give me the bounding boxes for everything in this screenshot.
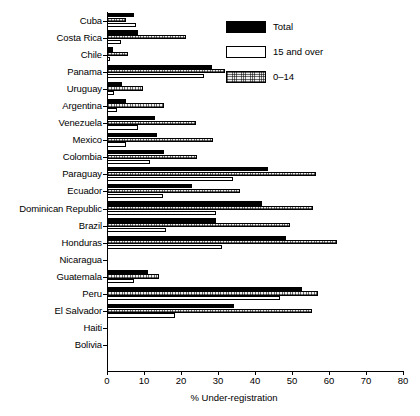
category-label: Haiti <box>83 323 102 333</box>
category-label: Nicaragua <box>60 255 102 265</box>
chart-row: El Salvador <box>107 303 403 320</box>
category-label: Mexico <box>73 135 103 145</box>
bar-15-and-over <box>107 40 121 44</box>
bar-15-and-over <box>107 279 134 283</box>
chart-row: Nicaragua <box>107 251 403 268</box>
category-label: Colombia <box>63 153 102 163</box>
x-axis-tick-label: 40 <box>250 376 261 386</box>
bar-total <box>107 13 134 17</box>
category-label: Bolivia <box>75 341 102 351</box>
chart-row: Venezuela <box>107 115 403 132</box>
category-label: Uruguay <box>67 84 102 94</box>
category-label: Peru <box>82 289 102 299</box>
bar-total <box>107 47 113 51</box>
bar-group <box>107 320 403 336</box>
bar-group <box>107 115 403 131</box>
bar-group <box>107 303 403 319</box>
category-label: Brazil <box>79 221 102 231</box>
bar-total <box>107 116 155 120</box>
legend-item: Total <box>226 14 396 39</box>
legend-swatch-black-fill <box>226 21 266 33</box>
bar-group <box>107 132 403 148</box>
x-axis-tick-label: 10 <box>139 376 150 386</box>
category-label: Chile <box>81 50 102 60</box>
bar-total <box>107 218 216 222</box>
bar-group <box>107 201 403 217</box>
bar-0-14 <box>107 172 316 176</box>
bar-0-14 <box>107 309 312 313</box>
bar-total <box>107 184 192 188</box>
bar-15-and-over <box>107 296 280 300</box>
bar-total <box>107 304 234 308</box>
category-label: Paraguay <box>62 170 102 180</box>
bar-0-14 <box>107 189 240 193</box>
legend-label: Total <box>273 22 293 32</box>
bar-15-and-over <box>107 23 136 27</box>
chart-row: Peru <box>107 286 403 303</box>
x-axis-title: % Under-registration <box>0 392 420 403</box>
bar-15-and-over <box>107 142 126 146</box>
category-label: Cuba <box>80 16 102 26</box>
category-label: Dominican Republic <box>19 204 102 214</box>
bar-15-and-over <box>107 57 110 61</box>
category-label: El Salvador <box>55 306 102 316</box>
bar-15-and-over <box>107 228 166 232</box>
bar-0-14 <box>107 206 313 210</box>
chart-row: Guatemala <box>107 268 403 285</box>
category-label: Argentina <box>62 101 102 111</box>
bar-total <box>107 270 148 274</box>
bar-15-and-over <box>107 74 204 78</box>
bar-0-14 <box>107 103 164 107</box>
chart-row: Colombia <box>107 149 403 166</box>
legend-swatch-hatched-fill <box>226 71 266 83</box>
bar-group <box>107 337 403 353</box>
bar-total <box>107 133 157 137</box>
category-label: Guatemala <box>56 272 102 282</box>
legend-label: 0–14 <box>273 72 294 82</box>
bar-15-and-over <box>107 125 138 129</box>
bar-total <box>107 236 286 240</box>
chart-legend: Total15 and over0–14 <box>226 14 396 89</box>
category-label: Ecuador <box>67 187 102 197</box>
bar-0-14 <box>107 223 290 227</box>
bar-0-14 <box>107 138 213 142</box>
chart-row: Haiti <box>107 320 403 337</box>
legend-item: 15 and over <box>226 39 396 64</box>
legend-swatch-white-fill <box>226 46 266 58</box>
bar-total <box>107 201 262 205</box>
bar-total <box>107 167 268 171</box>
x-axis-tick-label: 0 <box>104 376 109 386</box>
category-label: Venezuela <box>59 118 102 128</box>
legend-label: 15 and over <box>273 47 323 57</box>
bar-0-14 <box>107 121 196 125</box>
chart-row: Brazil <box>107 217 403 234</box>
x-axis-tick-label: 20 <box>176 376 187 386</box>
under-registration-bar-chart: CubaCosta RicaChilePanamaUruguayArgentin… <box>0 0 420 416</box>
chart-row: Honduras <box>107 234 403 251</box>
bar-group <box>107 269 403 285</box>
bar-total <box>107 287 302 291</box>
bar-0-14 <box>107 240 337 244</box>
bar-0-14 <box>107 18 126 22</box>
bar-0-14 <box>107 52 128 56</box>
bar-0-14 <box>107 274 159 278</box>
chart-row: Dominican Republic <box>107 200 403 217</box>
bar-15-and-over <box>107 245 222 249</box>
x-axis-tick-label: 60 <box>324 376 335 386</box>
bar-15-and-over <box>107 91 114 95</box>
bar-15-and-over <box>107 160 150 164</box>
bar-group <box>107 98 403 114</box>
category-label: Panama <box>67 67 102 77</box>
chart-row: Argentina <box>107 97 403 114</box>
bar-0-14 <box>107 35 186 39</box>
legend-item: 0–14 <box>226 64 396 89</box>
bar-group <box>107 235 403 251</box>
bar-total <box>107 82 122 86</box>
bar-0-14 <box>107 86 143 90</box>
x-axis-tick-label: 80 <box>398 376 409 386</box>
bar-total <box>107 30 138 34</box>
bar-15-and-over <box>107 108 117 112</box>
bar-group <box>107 286 403 302</box>
bar-0-14 <box>107 155 197 159</box>
chart-row: Paraguay <box>107 166 403 183</box>
